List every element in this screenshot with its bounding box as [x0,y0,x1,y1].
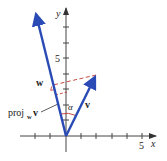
angle-arc [61,113,77,115]
diagram-canvas: 5 x 5 y [0,0,167,161]
proj-leader-line [41,104,58,112]
vector-v-label: v [85,99,90,110]
vector-w [36,14,66,136]
x-axis-label: x [150,138,156,149]
vector-projection-diagram: 5 x 5 y [0,0,167,161]
y-axis: 5 y [55,8,69,152]
angle-alpha-label: α [68,102,73,112]
projection-label: proj w v [8,107,38,120]
perpendicular-dash [53,75,96,85]
y-axis-label: y [55,8,61,19]
proj-label-subscript: w [27,113,32,120]
x-tick-label-5: 5 [139,140,144,151]
vector-w-label: w [36,77,44,88]
proj-label-main: proj [8,107,24,118]
y-tick-label-5: 5 [55,53,60,64]
proj-label-vector: v [33,107,38,118]
x-axis: 5 x [20,133,156,151]
